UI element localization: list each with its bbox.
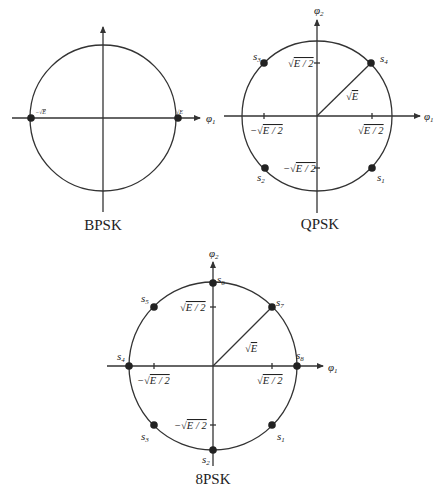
- 8psk-s7-label: s7: [276, 296, 284, 310]
- qpsk-point-s1: [368, 164, 376, 172]
- qpsk-s3-label: s3: [253, 50, 261, 64]
- 8psk-point-s4: [125, 362, 133, 370]
- 8psk-x-pos-tick-label: √E / 2: [257, 375, 283, 386]
- qpsk-point-s3: [260, 59, 268, 67]
- bpsk-phi1-label: φ1: [206, 112, 216, 126]
- qpsk-x-pos-tick-label: √E / 2: [358, 125, 384, 136]
- bpsk-point-neg: [27, 114, 35, 122]
- 8psk-x-neg-tick-label: −√E / 2: [137, 375, 170, 386]
- 8psk-s8-label: s8: [296, 349, 304, 363]
- 8psk-s5-label: s5: [141, 292, 149, 306]
- qpsk-phi1-label: φ1: [424, 110, 434, 124]
- 8psk-diagram: s1 s2 s3 s4 s5 s6 s7 s8 √E / 2 −√E / 2 −…: [107, 247, 338, 487]
- 8psk-s2-label: s2: [202, 453, 210, 467]
- 8psk-point-s3: [150, 421, 158, 429]
- bpsk-title: BPSK: [84, 217, 122, 233]
- 8psk-point-s5: [150, 303, 158, 311]
- qpsk-radius-label: √E: [346, 91, 359, 102]
- 8psk-point-s2: [209, 446, 217, 454]
- qpsk-title: QPSK: [301, 216, 340, 232]
- qpsk-s2-label: s2: [257, 171, 265, 185]
- 8psk-point-s1: [268, 421, 276, 429]
- qpsk-s1-label: s1: [377, 171, 385, 185]
- bpsk-pos-label: √E: [176, 109, 183, 115]
- qpsk-s4-label: s4: [380, 52, 388, 66]
- psk-constellation-figure: −√E √E φ1 BPSK s3 s4 s2 s1 √E / 2 −√E / …: [0, 0, 439, 498]
- 8psk-s3-label: s3: [141, 430, 149, 444]
- 8psk-radius-line: [213, 307, 272, 366]
- qpsk-radius-line: [317, 63, 371, 116]
- 8psk-point-s8: [293, 362, 301, 370]
- 8psk-s4-label: s4: [117, 350, 125, 364]
- qpsk-point-s2: [261, 164, 269, 172]
- qpsk-y-neg-tick-label: −√E / 2: [283, 163, 316, 174]
- 8psk-point-s7: [268, 303, 276, 311]
- qpsk-diagram: s3 s4 s2 s1 √E / 2 −√E / 2 −√E / 2 √E / …: [224, 4, 434, 232]
- bpsk-point-pos: [174, 114, 182, 122]
- 8psk-phi1-label: φ1: [328, 361, 338, 375]
- 8psk-title: 8PSK: [195, 471, 230, 487]
- bpsk-diagram: −√E √E φ1 BPSK: [12, 27, 216, 233]
- bpsk-neg-label: −√E: [35, 109, 46, 115]
- 8psk-s1-label: s1: [277, 430, 285, 444]
- 8psk-y-pos-tick-label: √E / 2: [180, 302, 206, 313]
- 8psk-phi2-label: φ2: [209, 247, 219, 261]
- 8psk-y-neg-tick-label: −√E / 2: [174, 420, 207, 431]
- qpsk-point-s4: [367, 59, 375, 67]
- 8psk-radius-label: √E: [245, 343, 258, 354]
- qpsk-phi2-label: φ2: [314, 4, 324, 18]
- 8psk-s6-label: s6: [217, 273, 225, 287]
- qpsk-y-pos-tick-label: √E / 2: [288, 58, 314, 69]
- qpsk-x-neg-tick-label: −√E / 2: [250, 125, 283, 136]
- 8psk-point-s6: [209, 279, 217, 287]
